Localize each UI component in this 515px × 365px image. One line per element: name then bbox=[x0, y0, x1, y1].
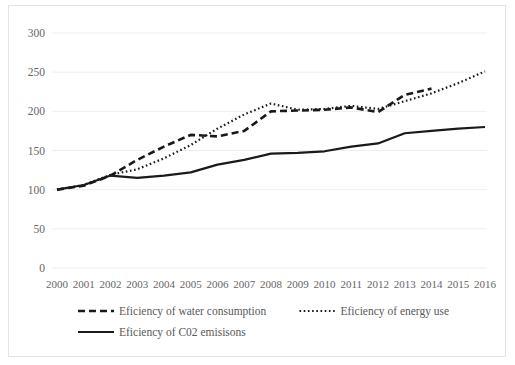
y-axis-tick-label: 50 bbox=[34, 223, 46, 235]
legend-label: Eficiency of water consumption bbox=[119, 305, 266, 318]
x-axis-tick-label: 2009 bbox=[287, 278, 310, 290]
series-line-dashed bbox=[57, 89, 432, 190]
x-axis-tick-label: 2002 bbox=[100, 278, 122, 290]
x-axis-tick-label: 2003 bbox=[126, 278, 149, 290]
y-axis-tick-label: 200 bbox=[28, 105, 46, 117]
x-axis-tick-label: 2014 bbox=[421, 278, 444, 290]
x-axis-tick-label: 2000 bbox=[46, 278, 69, 290]
x-axis-tick-label: 2013 bbox=[394, 278, 417, 290]
line-chart: 300250200150100500 200020012002200320042… bbox=[0, 0, 515, 365]
y-axis-labels: 300250200150100500 bbox=[28, 27, 46, 274]
legend-label: Eficiency of energy use bbox=[341, 305, 450, 318]
x-axis-tick-label: 2008 bbox=[260, 278, 283, 290]
x-axis-tick-label: 2010 bbox=[314, 278, 337, 290]
x-axis-tick-label: 2001 bbox=[73, 278, 95, 290]
y-axis-tick-label: 150 bbox=[28, 145, 46, 157]
x-axis-labels: 2000200120022003200420052006200720082009… bbox=[46, 278, 497, 290]
x-axis-tick-label: 2016 bbox=[474, 278, 497, 290]
x-axis-tick-label: 2006 bbox=[207, 278, 230, 290]
series-line-solid bbox=[57, 127, 485, 190]
series-group bbox=[57, 71, 485, 189]
x-axis-tick-label: 2012 bbox=[367, 278, 389, 290]
y-axis-tick-label: 300 bbox=[28, 27, 46, 39]
gridlines bbox=[52, 33, 487, 268]
y-axis-tick-label: 0 bbox=[39, 262, 45, 274]
x-axis-tick-label: 2004 bbox=[153, 278, 176, 290]
x-axis-tick-label: 2005 bbox=[180, 278, 203, 290]
chart-legend: Eficiency of water consumptionEficiency … bbox=[78, 305, 449, 339]
y-axis-tick-label: 100 bbox=[28, 184, 46, 196]
chart-page: 300250200150100500 200020012002200320042… bbox=[0, 0, 515, 365]
series-line-dotted bbox=[57, 71, 485, 189]
y-axis-tick-label: 250 bbox=[28, 66, 46, 78]
x-axis-tick-label: 2015 bbox=[447, 278, 470, 290]
x-axis-tick-label: 2007 bbox=[233, 278, 256, 290]
legend-label: Eficiency of C02 emisisons bbox=[119, 326, 246, 339]
x-axis-tick-label: 2011 bbox=[340, 278, 362, 290]
